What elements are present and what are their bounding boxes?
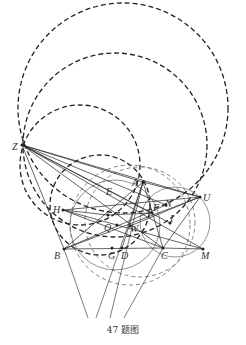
label-E: E — [105, 186, 112, 197]
segment-CM — [163, 248, 203, 249]
point-Q — [116, 224, 119, 227]
point-Z — [21, 144, 24, 147]
label-G: G — [108, 250, 115, 261]
dashed-circle — [20, 105, 140, 225]
ray — [64, 249, 88, 318]
label-Z: Z — [12, 141, 18, 152]
ray — [124, 248, 163, 318]
label-H: H — [52, 204, 61, 215]
point-U — [199, 196, 202, 199]
label-Q: Q — [104, 222, 112, 233]
label-D: D — [120, 250, 129, 261]
dashed-circles-dark — [18, 3, 228, 255]
label-W: W — [130, 223, 140, 234]
point-H — [62, 209, 65, 212]
label-M: M — [200, 250, 210, 261]
point-A — [142, 181, 145, 184]
point-B — [63, 248, 66, 251]
label-B: B — [54, 250, 60, 261]
ray — [96, 182, 143, 318]
dashed-circle — [18, 3, 228, 213]
label-A: A — [131, 177, 139, 188]
segment-ZN — [22, 145, 166, 205]
figure-caption: 47 题图 — [0, 323, 246, 336]
line-segments — [22, 145, 203, 249]
point-E — [107, 214, 110, 217]
label-U: U — [203, 192, 211, 203]
label-F: F — [152, 202, 160, 213]
segment-ZI — [22, 145, 170, 223]
segment-ZM — [22, 145, 203, 249]
geometry-figure: ZAUHEFNIQWBGDCM — [0, 0, 246, 345]
label-I: I — [169, 213, 174, 224]
label-C: C — [161, 250, 168, 261]
segment-BC — [64, 248, 163, 249]
label-N: N — [164, 198, 173, 209]
segment-AU — [143, 182, 200, 197]
